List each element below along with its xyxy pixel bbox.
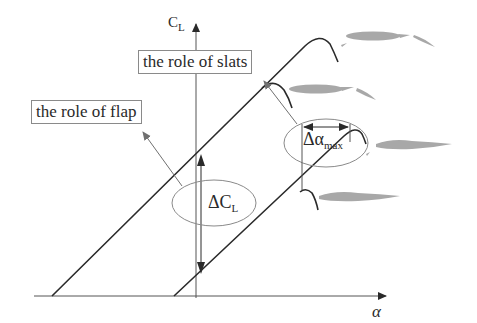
delta-alpha-label: Δαmax bbox=[303, 129, 343, 151]
flap-curve bbox=[262, 83, 292, 108]
cl-subscript: L bbox=[178, 21, 185, 33]
flap-and-slat-curve bbox=[52, 38, 338, 296]
airfoil-flap-icon bbox=[289, 85, 376, 101]
airfoil-clean-icon bbox=[319, 192, 400, 201]
delta-alpha-subscript: max bbox=[324, 139, 343, 151]
delta-cl-arrow bbox=[197, 154, 205, 274]
flap-callout: the role of flap bbox=[31, 100, 142, 124]
airfoil-slat-and-flap-icon bbox=[341, 32, 435, 48]
flap-leader-line bbox=[143, 132, 182, 186]
airfoil-slat-icon bbox=[366, 140, 452, 156]
cl-letter: C bbox=[168, 14, 178, 30]
delta-cl-text: ΔC bbox=[208, 192, 232, 212]
delta-cl-subscript: L bbox=[232, 202, 239, 214]
delta-alpha-text: Δα bbox=[303, 129, 324, 149]
clean-curve bbox=[300, 190, 318, 210]
slats-callout: the role of slats bbox=[138, 50, 252, 74]
lift-curve-diagram bbox=[0, 0, 477, 323]
delta-cl-label: ΔCL bbox=[208, 192, 238, 214]
x-axis-label: α bbox=[372, 302, 381, 322]
y-axis-label: CL bbox=[168, 14, 185, 33]
slat-curve bbox=[174, 130, 366, 296]
